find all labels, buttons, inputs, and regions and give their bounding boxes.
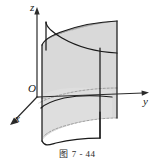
y-axis-label: y xyxy=(143,96,148,107)
origin-label: O xyxy=(28,83,36,94)
z-axis-arrowhead xyxy=(34,7,39,15)
figure-caption: 图 7 - 44 xyxy=(0,150,155,160)
figure-container: z y x O 图 7 - 44 xyxy=(0,0,155,164)
surface-group xyxy=(42,21,117,141)
z-axis-label: z xyxy=(30,2,34,13)
x-axis-label: x xyxy=(15,113,20,124)
parabolic-cylinder-diagram xyxy=(0,0,155,164)
bottom-parabola xyxy=(42,138,100,145)
